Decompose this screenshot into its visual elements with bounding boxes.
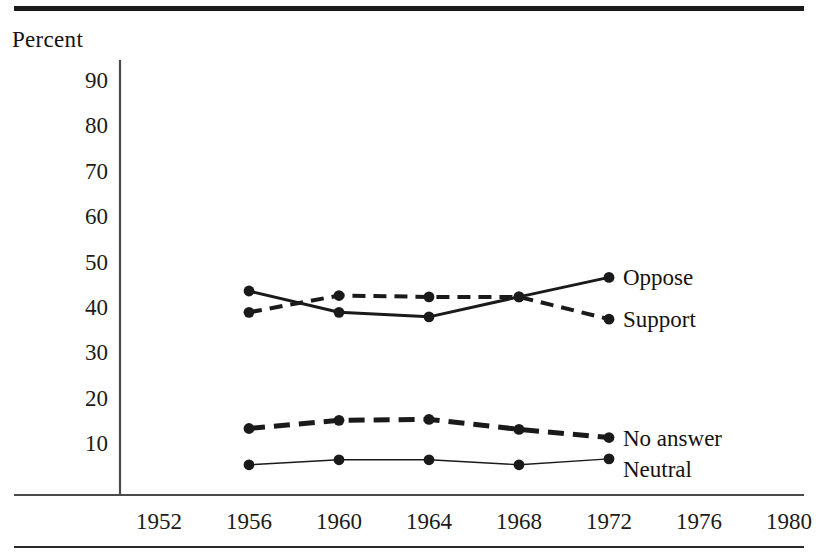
x-tick-label: 1956 xyxy=(226,509,272,534)
y-tick-label: 30 xyxy=(85,340,108,365)
data-point xyxy=(604,314,615,325)
series-label-support: Support xyxy=(623,307,696,332)
x-tick-label: 1964 xyxy=(406,509,453,534)
data-point xyxy=(334,454,345,465)
data-point xyxy=(334,415,345,426)
series-no-answer: No answer xyxy=(244,414,723,451)
data-point xyxy=(244,286,255,297)
data-point xyxy=(244,307,255,318)
y-tick-label: 70 xyxy=(85,159,108,184)
data-point xyxy=(604,272,615,283)
data-point xyxy=(604,432,615,443)
series-label-oppose: Oppose xyxy=(623,265,693,290)
y-tick-label: 60 xyxy=(85,204,108,229)
y-tick-label: 90 xyxy=(85,68,108,93)
y-tick-label: 10 xyxy=(85,431,108,456)
x-tick-label: 1960 xyxy=(316,509,362,534)
data-point xyxy=(514,291,525,302)
data-point xyxy=(244,459,255,470)
data-point xyxy=(514,424,525,435)
line-chart-plot: 1020304050607080901952195619601964196819… xyxy=(0,0,818,554)
x-tick-label: 1980 xyxy=(766,509,812,534)
chart-figure: Percent 10203040506070809019521956196019… xyxy=(0,0,818,554)
x-tick-label: 1968 xyxy=(496,509,542,534)
series-support: Support xyxy=(244,290,697,332)
series-label-no-answer: No answer xyxy=(623,426,722,451)
y-tick-label: 80 xyxy=(85,113,108,138)
series-neutral: Neutral xyxy=(244,453,692,482)
bottom-rule xyxy=(14,546,804,548)
data-point xyxy=(604,453,615,464)
data-point xyxy=(334,307,345,318)
y-tick-label: 20 xyxy=(85,386,108,411)
data-point xyxy=(424,414,435,425)
x-tick-label: 1952 xyxy=(136,509,182,534)
x-tick-label: 1972 xyxy=(586,509,632,534)
data-point xyxy=(424,311,435,322)
data-point xyxy=(424,291,435,302)
data-point xyxy=(244,423,255,434)
data-point xyxy=(514,459,525,470)
x-tick-label: 1976 xyxy=(676,509,722,534)
data-point xyxy=(334,290,345,301)
y-tick-label: 40 xyxy=(85,295,108,320)
series-label-neutral: Neutral xyxy=(623,457,692,482)
data-point xyxy=(424,454,435,465)
y-tick-label: 50 xyxy=(85,250,108,275)
